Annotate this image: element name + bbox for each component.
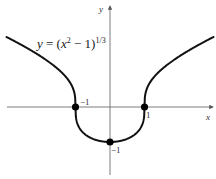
- function-graph: x y −1 1 −1 y = (x2 − 1)1/3: [0, 0, 216, 179]
- eq-lhs: = (: [43, 36, 61, 51]
- x-tick-label-1: 1: [146, 110, 151, 120]
- eq-sup2: 1/3: [95, 36, 105, 45]
- equation-label: y = (x2 − 1)1/3: [35, 36, 106, 51]
- highlighted-point: [72, 103, 79, 110]
- x-tick-label-neg1: −1: [80, 97, 90, 107]
- x-axis-label: x: [205, 112, 210, 122]
- eq-mid: − 1): [71, 36, 96, 51]
- y-tick-label-neg1: −1: [111, 145, 121, 155]
- y-axis-label: y: [98, 4, 103, 14]
